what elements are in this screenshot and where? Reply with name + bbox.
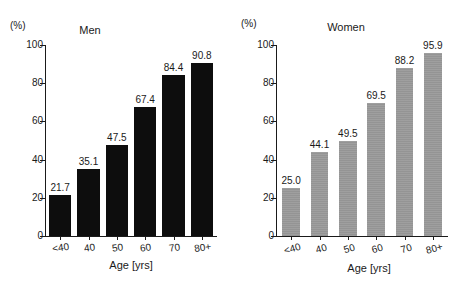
bar-value-label: 67.4 <box>135 95 154 105</box>
x-tick-label: <40 <box>283 242 302 256</box>
y-tick-label: 0 <box>37 231 43 241</box>
bar: 88.2 <box>396 68 414 236</box>
bar-value-label: 84.4 <box>164 63 183 73</box>
y-tick-label: 40 <box>263 155 274 165</box>
bar-value-label: 88.2 <box>395 56 414 66</box>
x-tick-label: 80+ <box>193 242 211 254</box>
bar-value-label: 47.5 <box>107 133 126 143</box>
x-tick-mark <box>405 236 406 240</box>
x-tick-mark <box>145 236 146 240</box>
bar: 90.8 <box>191 63 214 236</box>
x-tick-mark <box>376 236 377 240</box>
x-axis-line-men <box>45 236 217 237</box>
y-axis-line-men <box>45 45 46 236</box>
x-tick-mark <box>117 236 118 240</box>
panel-title-men: Men <box>60 24 120 36</box>
bar: 44.1 <box>311 152 329 236</box>
bar-value-label: 35.1 <box>79 157 98 167</box>
y-tick-label: 40 <box>32 155 43 165</box>
x-tick-label: 40 <box>83 242 95 253</box>
y-tick-label: 80 <box>263 78 274 88</box>
bar-value-label: 69.5 <box>366 91 385 101</box>
panel-men: (%) Men 02040608010021.7<4035.14047.5506… <box>0 0 229 287</box>
bar: 25.0 <box>282 188 300 236</box>
bar: 67.4 <box>134 107 157 236</box>
x-axis-title-women: Age [yrs] <box>319 262 419 274</box>
bar: 69.5 <box>367 103 385 236</box>
x-axis-line-women <box>276 236 448 237</box>
bar: 21.7 <box>49 195 72 236</box>
y-tick-label: 60 <box>263 116 274 126</box>
plot-area-women: 02040608010025.0<4044.14049.55069.56088.… <box>277 45 447 236</box>
y-axis-line-women <box>276 45 277 236</box>
y-tick-label: 0 <box>268 231 274 241</box>
bar-value-label: 49.5 <box>338 129 357 139</box>
bar-value-label: 95.9 <box>423 41 442 51</box>
y-tick-label: 100 <box>257 40 274 50</box>
bar-value-label: 90.8 <box>192 51 211 61</box>
x-tick-mark <box>60 236 61 240</box>
x-tick-label: 50 <box>111 242 123 253</box>
figure-two-panel-bar-charts: (%) Men 02040608010021.7<4035.14047.5506… <box>0 0 458 287</box>
bar: 49.5 <box>339 141 357 236</box>
bar: 35.1 <box>77 169 100 236</box>
bar-value-label: 21.7 <box>50 183 69 193</box>
bar: 95.9 <box>424 53 442 236</box>
bar-value-label: 44.1 <box>310 140 329 150</box>
y-tick-label: 100 <box>26 40 43 50</box>
x-tick-mark <box>89 236 90 240</box>
y-tick-label: 20 <box>32 193 43 203</box>
x-tick-label: 50 <box>342 242 355 255</box>
x-tick-mark <box>433 236 434 240</box>
bar: 47.5 <box>106 145 129 236</box>
y-tick-label: 20 <box>263 193 274 203</box>
y-tick-label: 60 <box>32 116 43 126</box>
x-tick-mark <box>320 236 321 240</box>
x-tick-mark <box>174 236 175 240</box>
plot-area-men: 02040608010021.7<4035.14047.55067.46084.… <box>46 45 216 236</box>
panel-women: (%) Women 02040608010025.0<4044.14049.55… <box>229 0 458 287</box>
y-axis-unit-label-women: (%) <box>241 18 257 29</box>
x-tick-label: 70 <box>399 242 412 255</box>
y-axis-unit-label-men: (%) <box>10 20 26 31</box>
x-tick-label: 80+ <box>425 242 444 256</box>
x-tick-mark <box>202 236 203 240</box>
x-tick-label: <40 <box>52 242 70 254</box>
bar: 84.4 <box>162 75 185 236</box>
x-tick-label: 60 <box>371 242 384 255</box>
x-tick-label: 40 <box>314 242 327 255</box>
x-tick-label: 60 <box>140 242 152 253</box>
x-tick-mark <box>348 236 349 240</box>
x-axis-title-men: Age [yrs] <box>81 259 181 271</box>
x-tick-mark <box>291 236 292 240</box>
y-tick-label: 80 <box>32 78 43 88</box>
panel-title-women: Women <box>311 21 381 33</box>
bar-value-label: 25.0 <box>281 176 300 186</box>
x-tick-label: 70 <box>168 242 180 253</box>
